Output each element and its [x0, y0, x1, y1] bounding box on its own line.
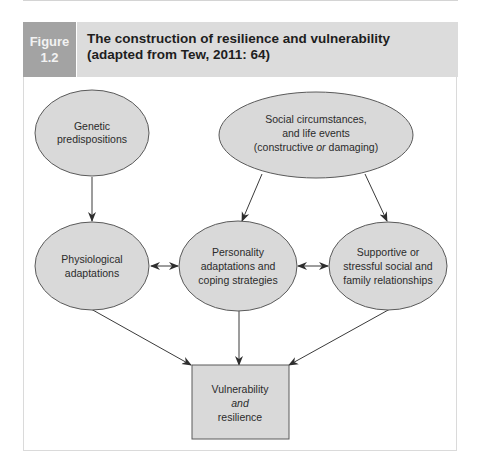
node-outcome: Vulnerability and resilience	[192, 365, 289, 439]
node-text: family relationships	[343, 274, 432, 286]
edge-social-supportive	[365, 174, 387, 221]
svg-text:adaptations and: adaptations and	[201, 260, 276, 272]
node-text: coping strategies	[198, 274, 277, 286]
node-text: Personality	[212, 246, 265, 258]
node-supportive: Supportive or stressful social and famil…	[329, 222, 447, 310]
node-text: predispositions	[57, 133, 127, 145]
svg-text:Genetic: Genetic	[74, 120, 110, 132]
node-text-italic: and	[231, 397, 250, 409]
node-text: damaging)	[326, 141, 379, 153]
edge-supportive-outcome	[289, 309, 390, 365]
svg-text:adaptations: adaptations	[65, 267, 119, 279]
svg-text:coping strategies: coping strategies	[198, 274, 277, 286]
svg-text:resilience: resilience	[218, 411, 263, 423]
svg-text:family relationships: family relationships	[343, 274, 432, 286]
node-text: Vulnerability	[212, 383, 270, 395]
diagram-canvas: Genetic predispositions Social circumsta…	[0, 0, 481, 469]
node-physiological: Physiological adaptations	[35, 222, 149, 310]
node-text: and life events	[282, 127, 350, 139]
node-genetic: Genetic predispositions	[35, 90, 149, 176]
edge-social-personality	[242, 174, 262, 221]
node-text: resilience	[218, 411, 263, 423]
node-text: Supportive or	[357, 246, 420, 258]
node-text: Physiological	[61, 253, 122, 265]
node-text: (constructive	[254, 141, 316, 153]
svg-text:(constructive or damaging): (constructive or damaging)	[254, 141, 378, 153]
svg-text:predispositions: predispositions	[57, 133, 127, 145]
node-personality: Personality adaptations and coping strat…	[179, 221, 297, 311]
svg-text:Physiological: Physiological	[61, 253, 122, 265]
svg-text:stressful social and: stressful social and	[343, 260, 432, 272]
edge-physiological-outcome	[91, 309, 191, 365]
node-text: Social circumstances,	[265, 113, 367, 125]
node-social: Social circumstances, and life events (c…	[219, 92, 413, 178]
svg-text:Personality: Personality	[212, 246, 265, 258]
svg-text:and life events: and life events	[282, 127, 350, 139]
node-text: adaptations	[65, 267, 119, 279]
node-text: Genetic	[74, 120, 110, 132]
node-text: stressful social and	[343, 260, 432, 272]
svg-text:Vulnerability: Vulnerability	[212, 383, 270, 395]
svg-text:Supportive or: Supportive or	[357, 246, 420, 258]
node-text: adaptations and	[201, 260, 276, 272]
svg-text:and: and	[231, 397, 250, 409]
svg-text:Social circumstances,: Social circumstances,	[265, 113, 367, 125]
